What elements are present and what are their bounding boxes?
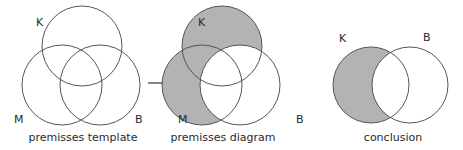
label-k: K (339, 32, 347, 45)
conclusion-diagram: K B conclusion (333, 31, 448, 144)
label-k: K (36, 16, 44, 29)
label-k: K (198, 16, 206, 29)
label-m: M (178, 113, 188, 126)
premisses-template-diagram: K M B premisses template (14, 6, 143, 144)
label-b: B (423, 31, 431, 44)
label-b: B (135, 113, 143, 126)
label-b: B (296, 113, 304, 126)
shaded-region-k-or-m-not-b (162, 6, 262, 125)
label-m: M (14, 113, 24, 126)
caption: premisses template (29, 131, 138, 144)
venn-diagrams-figure: K M B premisses template K M B premisses… (0, 0, 463, 150)
premisses-diagram: K M B premisses diagram (162, 6, 304, 144)
caption: premisses diagram (171, 131, 276, 144)
caption: conclusion (364, 131, 422, 144)
